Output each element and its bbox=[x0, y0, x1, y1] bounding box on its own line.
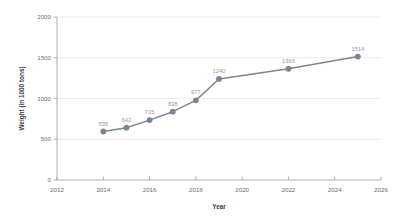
x-tick-label: 2026 bbox=[374, 186, 388, 193]
data-point-label: 595 bbox=[98, 121, 108, 127]
x-tick-label: 2022 bbox=[282, 186, 296, 193]
data-point-marker[interactable] bbox=[193, 97, 199, 103]
data-point-marker[interactable] bbox=[286, 66, 292, 72]
y-tick-label: 1000 bbox=[37, 95, 51, 102]
y-tick-label: 0 bbox=[48, 176, 52, 183]
data-point-marker[interactable] bbox=[147, 117, 153, 123]
x-tick-label: 2012 bbox=[50, 186, 64, 193]
data-point-marker[interactable] bbox=[100, 129, 106, 135]
data-point-marker[interactable] bbox=[355, 54, 361, 60]
data-point-marker[interactable] bbox=[170, 109, 176, 115]
data-point-marker[interactable] bbox=[124, 125, 130, 131]
data-point-label: 838 bbox=[168, 101, 178, 107]
data-point-label: 735 bbox=[145, 109, 155, 115]
x-tick-label: 2014 bbox=[96, 186, 110, 193]
y-axis-title: Weight (in 1000 tons) bbox=[18, 66, 26, 130]
data-point-label: 977 bbox=[191, 89, 201, 95]
data-point-label: 1240 bbox=[213, 68, 226, 74]
data-point-label: 642 bbox=[122, 117, 132, 123]
y-tick-label: 500 bbox=[41, 135, 52, 142]
x-tick-label: 2024 bbox=[328, 186, 342, 193]
y-tick-label: 2000 bbox=[37, 13, 51, 20]
data-point-label: 1365 bbox=[282, 58, 295, 64]
x-axis-title: Year bbox=[212, 203, 226, 210]
line-chart: 0500100015002000201220142016201820202022… bbox=[0, 0, 401, 216]
chart-plot-area: 0500100015002000201220142016201820202022… bbox=[0, 0, 401, 216]
data-point-marker[interactable] bbox=[216, 76, 222, 82]
x-tick-label: 2016 bbox=[143, 186, 157, 193]
x-tick-label: 2018 bbox=[189, 186, 203, 193]
series-line-weight bbox=[103, 57, 358, 132]
y-tick-label: 1500 bbox=[37, 54, 51, 61]
data-point-label: 1514 bbox=[351, 46, 365, 52]
x-tick-label: 2020 bbox=[235, 186, 249, 193]
